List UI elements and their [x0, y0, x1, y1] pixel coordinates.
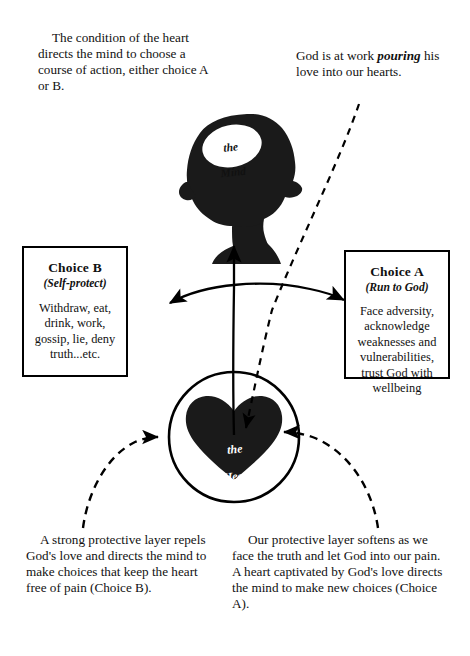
caption-top-left: The condition of the heart directs the m… — [38, 30, 208, 94]
mind-label-line1: the — [204, 138, 257, 156]
caption-top-right-part1: God is at work — [296, 48, 377, 63]
heart-label: the Heart — [206, 428, 266, 498]
choice-b-subtitle: (Self-protect) — [24, 277, 126, 290]
choice-a-body: Face adversity, acknowledge weaknesses a… — [346, 304, 448, 396]
diagram-canvas: The condition of the heart directs the m… — [0, 0, 470, 656]
caption-top-right-emphasis: pouring — [377, 48, 420, 63]
caption-bottom-left: A strong protective layer repels God's l… — [26, 532, 216, 596]
heart-label-line2: Heart — [210, 467, 265, 485]
heart-to-mind-arrow — [233, 246, 234, 435]
choice-a-title: Choice A — [346, 264, 448, 280]
mind-label-line2: Mind — [207, 164, 260, 182]
choice-a-subtitle: (Run to God) — [346, 281, 448, 294]
choice-a-box[interactable]: Choice A (Run to God) Face adversity, ac… — [344, 250, 450, 379]
mind-label: the Mind — [203, 125, 261, 194]
choice-b-title: Choice B — [24, 260, 126, 276]
choice-b-to-choice-a-arrow — [170, 284, 344, 303]
bottom-left-to-heart-arrow — [83, 437, 158, 528]
caption-bottom-right: Our protective layer softens as we face … — [232, 532, 444, 612]
choice-b-body: Withdraw, eat, drink, work, gossip, lie,… — [24, 301, 126, 363]
caption-top-right: God is at work pouring his love into our… — [296, 48, 461, 80]
choice-b-box[interactable]: Choice B (Self-protect) Withdraw, eat, d… — [22, 246, 128, 377]
heart-label-line1: the — [207, 441, 262, 459]
